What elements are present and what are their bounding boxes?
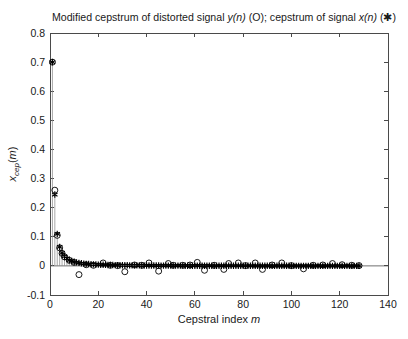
svg-text:0.4: 0.4 [30, 143, 45, 155]
axes [50, 33, 388, 295]
svg-text:140: 140 [379, 298, 397, 310]
svg-text:0.1: 0.1 [30, 230, 45, 242]
figure-canvas: 020406080100120140-0.100.10.20.30.40.50.… [0, 0, 408, 339]
y-axis-label: xcep(m) [6, 147, 21, 183]
y-tick-labels: -0.100.10.20.30.40.50.60.70.8 [27, 27, 45, 301]
svg-text:0.8: 0.8 [30, 27, 45, 39]
svg-text:0.7: 0.7 [30, 56, 45, 68]
svg-text:20: 20 [92, 298, 104, 310]
svg-text:0.2: 0.2 [30, 201, 45, 213]
svg-text:0.6: 0.6 [30, 85, 45, 97]
series-x-cepstrum-asterisks [50, 59, 362, 269]
svg-text:80: 80 [237, 298, 249, 310]
plot-box [50, 33, 388, 295]
svg-text:0.3: 0.3 [30, 172, 45, 184]
stem-lines [52, 62, 359, 266]
svg-text:0: 0 [39, 259, 45, 271]
x-tick-labels: 020406080100120140 [47, 298, 397, 310]
svg-text:0: 0 [47, 298, 53, 310]
tick-marks [50, 33, 388, 295]
svg-text:100: 100 [283, 298, 301, 310]
cepstrum-chart: 020406080100120140-0.100.10.20.30.40.50.… [0, 0, 408, 339]
svg-text:60: 60 [189, 298, 201, 310]
svg-text:-0.1: -0.1 [27, 289, 45, 301]
x-axis-label: Cepstral index m [178, 313, 261, 325]
series-y-cepstrum-circles [49, 59, 362, 278]
svg-text:40: 40 [141, 298, 153, 310]
svg-text:120: 120 [331, 298, 349, 310]
svg-text:0.5: 0.5 [30, 114, 45, 126]
chart-title: Modified cepstrum of distorted signal y(… [52, 11, 396, 23]
